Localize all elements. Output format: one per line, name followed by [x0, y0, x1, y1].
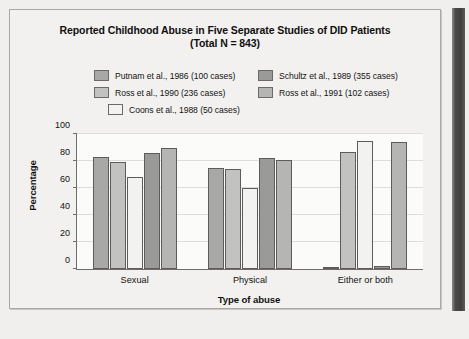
legend-item: Ross et al., 1991 (102 cases)	[258, 87, 389, 98]
legend-item-label: Coons et al., 1988 (50 cases)	[129, 105, 240, 115]
figure-panel: Reported Childhood Abuse in Five Separat…	[9, 9, 441, 309]
bar-group: Either or both	[308, 134, 423, 269]
bar	[127, 177, 143, 269]
bar	[259, 158, 275, 269]
y-axis-tick-label: 40	[60, 201, 70, 211]
legend-swatch-icon	[108, 104, 123, 115]
chart-title-line-1: Reported Childhood Abuse in Five Separat…	[10, 24, 440, 37]
bar-group: Physical	[192, 134, 307, 269]
legend-swatch-icon	[94, 70, 109, 81]
x-axis-tick-label: Sexual	[75, 275, 195, 285]
legend-item: Schultz et al., 1989 (355 cases)	[258, 70, 398, 81]
bar	[144, 153, 160, 269]
legend-item-label: Schultz et al., 1989 (355 cases)	[279, 71, 398, 81]
y-axis-tick-label: 20	[60, 228, 70, 238]
legend-item-label: Ross et al., 1991 (102 cases)	[279, 88, 389, 98]
bar	[93, 157, 109, 269]
legend-swatch-icon	[258, 70, 273, 81]
bar-group: Sexual	[77, 134, 192, 269]
bar	[242, 188, 258, 269]
x-axis-tick-label: Either or both	[305, 275, 425, 285]
x-axis-title: Type of abuse	[76, 294, 422, 305]
bar	[323, 267, 339, 270]
legend-item-label: Ross et al., 1990 (236 cases)	[115, 88, 225, 98]
legend-swatch-icon	[94, 87, 109, 98]
legend-item: Putnam et al., 1986 (100 cases)	[94, 70, 235, 81]
legend-swatch-icon	[258, 87, 273, 98]
bar	[357, 141, 373, 269]
page-gutter-shadow	[452, 8, 465, 311]
y-axis-title: Percentage	[27, 146, 38, 226]
figure-root: Reported Childhood Abuse in Five Separat…	[0, 0, 469, 339]
bar	[374, 266, 390, 269]
legend-item-label: Putnam et al., 1986 (100 cases)	[115, 71, 235, 81]
legend-item: Coons et al., 1988 (50 cases)	[108, 104, 240, 115]
y-axis-tick-label: 0	[65, 255, 70, 265]
bar	[340, 152, 356, 269]
y-axis-tick-label: 100	[55, 120, 70, 130]
chart-title: Reported Childhood Abuse in Five Separat…	[10, 24, 440, 50]
bar	[161, 148, 177, 270]
x-axis-tick-label: Physical	[190, 275, 310, 285]
y-axis-tick-label: 60	[60, 174, 70, 184]
chart-title-line-2: (Total N = 843)	[10, 37, 440, 50]
bar	[110, 162, 126, 269]
bar	[225, 169, 241, 269]
axes: 020406080100SexualPhysicalEither or both	[76, 134, 423, 270]
chart-legend: Putnam et al., 1986 (100 cases)Ross et a…	[86, 70, 426, 120]
bar	[208, 168, 224, 269]
plot-area: Percentage 020406080100SexualPhysicalEit…	[10, 128, 442, 310]
y-axis-tick-label: 80	[60, 147, 70, 157]
bar	[276, 160, 292, 269]
legend-item: Ross et al., 1990 (236 cases)	[94, 87, 225, 98]
bar	[391, 142, 407, 269]
